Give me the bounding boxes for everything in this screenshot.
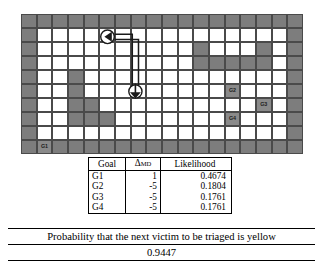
grid-cell-free[interactable]	[99, 70, 115, 84]
grid-cell-wall[interactable]	[84, 14, 100, 28]
grid-cell-free[interactable]	[272, 42, 288, 56]
grid-cell-free[interactable]	[178, 84, 194, 98]
grid-cell-free[interactable]	[68, 126, 84, 140]
grid-cell-wall[interactable]	[240, 140, 256, 154]
grid-cell-free[interactable]	[146, 112, 162, 126]
grid-cell-free[interactable]	[146, 56, 162, 70]
grid-cell-free[interactable]	[131, 28, 147, 42]
grid-cell-free[interactable]	[37, 112, 53, 126]
grid-cell-free[interactable]	[272, 56, 288, 70]
grid-cell-free[interactable]	[193, 98, 209, 112]
grid-cell-free[interactable]	[162, 112, 178, 126]
grid-cell-free[interactable]	[240, 98, 256, 112]
grid-cell-wall[interactable]	[287, 70, 303, 84]
grid-cell-wall[interactable]	[256, 56, 272, 70]
grid-cell-free[interactable]	[115, 42, 131, 56]
grid-cell-free[interactable]	[240, 42, 256, 56]
grid-cell-wall[interactable]	[193, 14, 209, 28]
grid-cell-free[interactable]	[193, 28, 209, 42]
grid-cell-wall[interactable]	[68, 84, 84, 98]
grid-cell-free[interactable]	[84, 126, 100, 140]
grid-cell-wall[interactable]	[162, 140, 178, 154]
grid-cell-free[interactable]	[37, 28, 53, 42]
grid-cell-free[interactable]	[37, 84, 53, 98]
grid-cell-wall[interactable]	[52, 14, 68, 28]
grid-cell-free[interactable]	[162, 84, 178, 98]
grid-cell-free[interactable]	[256, 70, 272, 84]
grid-cell-wall[interactable]	[21, 14, 37, 28]
grid-cell-free[interactable]	[52, 28, 68, 42]
grid-cell-wall[interactable]	[131, 140, 147, 154]
grid-cell-free[interactable]	[52, 126, 68, 140]
grid-cell-free[interactable]	[131, 126, 147, 140]
grid-cell-free[interactable]	[272, 112, 288, 126]
grid-cell-free[interactable]	[52, 98, 68, 112]
grid-cell-wall[interactable]	[99, 14, 115, 28]
grid-cell-free[interactable]	[272, 126, 288, 140]
grid-cell-wall[interactable]	[115, 140, 131, 154]
grid-cell-wall[interactable]	[21, 140, 37, 154]
grid-cell-free[interactable]	[256, 112, 272, 126]
grid-cell-free[interactable]	[162, 56, 178, 70]
grid-cell-free[interactable]	[193, 112, 209, 126]
grid-cell-free[interactable]	[193, 126, 209, 140]
grid-cell-free[interactable]	[115, 126, 131, 140]
grid-cell-free[interactable]	[146, 28, 162, 42]
grid-cell-free[interactable]	[209, 98, 225, 112]
grid-cell-free[interactable]	[84, 70, 100, 84]
grid-cell-free[interactable]	[146, 98, 162, 112]
grid-cell-free[interactable]	[68, 56, 84, 70]
grid-cell-free[interactable]	[84, 42, 100, 56]
grid-cell-free[interactable]	[99, 126, 115, 140]
grid-cell-free[interactable]	[68, 42, 84, 56]
grid-cell-wall[interactable]	[240, 56, 256, 70]
grid-cell-wall[interactable]	[68, 14, 84, 28]
grid-cell-free[interactable]	[115, 98, 131, 112]
grid-cell-free[interactable]	[99, 98, 115, 112]
grid-cell-free[interactable]	[193, 70, 209, 84]
grid-cell-free[interactable]	[115, 84, 131, 98]
grid-cell-wall[interactable]	[84, 98, 100, 112]
grid-cell-wall[interactable]	[99, 140, 115, 154]
grid-cell-free[interactable]	[84, 84, 100, 98]
grid-cell-wall[interactable]	[68, 98, 84, 112]
grid-cell-free[interactable]	[162, 126, 178, 140]
grid-cell-free[interactable]	[225, 70, 241, 84]
grid-cell-free[interactable]	[209, 70, 225, 84]
grid-cell-free[interactable]	[131, 56, 147, 70]
grid-cell-free[interactable]	[178, 126, 194, 140]
grid-cell-free[interactable]	[178, 112, 194, 126]
grid-cell-free[interactable]	[225, 28, 241, 42]
grid-cell-free[interactable]	[52, 84, 68, 98]
grid-cell-wall[interactable]	[287, 140, 303, 154]
grid-cell-wall[interactable]	[209, 140, 225, 154]
grid-cell-free[interactable]	[99, 56, 115, 70]
grid-cell-free[interactable]	[37, 126, 53, 140]
grid-cell-wall[interactable]	[287, 98, 303, 112]
grid-cell-wall[interactable]	[21, 42, 37, 56]
grid-cell-wall[interactable]	[178, 14, 194, 28]
grid-cell-free[interactable]	[272, 84, 288, 98]
grid-cell-wall[interactable]	[21, 126, 37, 140]
grid-cell-goal-g2[interactable]: G2	[225, 84, 241, 98]
grid-cell-wall[interactable]	[193, 56, 209, 70]
grid-cell-wall[interactable]	[99, 112, 115, 126]
grid-cell-free[interactable]	[272, 70, 288, 84]
grid-cell-wall[interactable]	[146, 140, 162, 154]
grid-cell-free[interactable]	[131, 42, 147, 56]
grid-cell-free[interactable]	[115, 112, 131, 126]
grid-cell-free[interactable]	[68, 28, 84, 42]
grid-cell-free[interactable]	[240, 70, 256, 84]
grid-cell-free[interactable]	[99, 84, 115, 98]
grid-cell-free[interactable]	[52, 70, 68, 84]
grid-cell-free[interactable]	[178, 56, 194, 70]
grid-cell-free[interactable]	[272, 28, 288, 42]
grid-cell-wall[interactable]	[131, 14, 147, 28]
grid-cell-free[interactable]	[115, 70, 131, 84]
grid-cell-free[interactable]	[162, 70, 178, 84]
grid-cell-free[interactable]	[256, 28, 272, 42]
grid-cell-wall[interactable]	[209, 56, 225, 70]
grid-cell-free[interactable]	[256, 84, 272, 98]
grid-cell-wall[interactable]	[21, 28, 37, 42]
grid-cell-free[interactable]	[146, 42, 162, 56]
